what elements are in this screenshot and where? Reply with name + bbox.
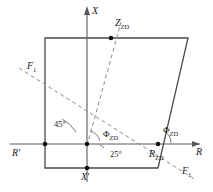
angle-45-label: 45° (54, 120, 66, 129)
f1-upper-label: F1 (27, 61, 36, 74)
phi-zd-left-label: ΦZD (103, 130, 118, 141)
r-axis-right-text: R (196, 146, 202, 157)
f1-lower-subscript: 1 (188, 171, 191, 178)
r-prime-node-dot (43, 142, 48, 147)
angle-45-text: 45° (54, 119, 66, 129)
x-prime-mark: ′ (87, 171, 89, 182)
x-prime-node-dot (85, 166, 90, 171)
zd-coordinate-diagram: X R ZZD F1 45° ΦZD 25° ΦZD RZD R′ X′ F1 (0, 0, 213, 192)
angle-25-arc (100, 145, 104, 148)
x-axis-top-text: X (92, 5, 98, 16)
z-zd-label: ZZD (115, 18, 129, 31)
x-prime-label: X′ (81, 172, 89, 182)
x-axis-top-label: X (92, 6, 98, 16)
r-prime-label: R′ (12, 148, 20, 158)
phi-zd-left-subscript: ZD (110, 134, 119, 141)
z-zd-subscript: ZD (121, 23, 130, 30)
f1-lower-label: F1 (182, 166, 191, 179)
r-zd-node-dot (156, 142, 161, 147)
x-axis-arrow-icon (84, 6, 90, 15)
diagram-canvas (0, 0, 213, 192)
phi-zd-left-arc (90, 131, 100, 141)
r-zd-label: RZD (149, 149, 164, 162)
z-zd-node-dot (109, 36, 114, 41)
origin-node-dot (85, 142, 90, 147)
phi-zd-right-subscript: ZD (170, 130, 179, 137)
z-zd-dashed-ray (87, 22, 121, 146)
r-zd-subscript: ZD (155, 154, 164, 161)
phi-zd-right-text: Φ (163, 125, 170, 135)
r-axis-right-label: R (196, 147, 202, 157)
angle-25-text: 25° (110, 149, 122, 159)
r-prime-mark: ′ (18, 147, 20, 158)
phi-zd-right-label: ΦZD (163, 126, 178, 137)
phi-zd-left-text: Φ (103, 129, 110, 139)
angle-25-label: 25° (110, 150, 122, 159)
f1-upper-subscript: 1 (33, 66, 36, 73)
